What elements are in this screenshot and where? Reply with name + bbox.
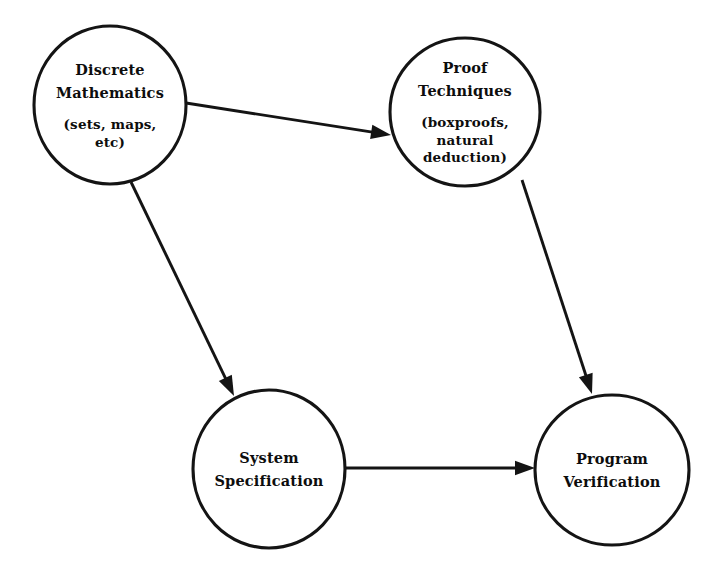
node-subtitle-line: natural (436, 132, 493, 148)
edge-arrowhead (370, 125, 391, 139)
edge-arrowhead (579, 373, 593, 394)
edge-discrete-mathematics-to-system-specification (131, 182, 234, 396)
nodes-layer: DiscreteMathematics(sets, maps,etc)Proof… (34, 26, 689, 548)
node-title-line: Verification (562, 473, 660, 490)
node-title-line: Mathematics (56, 84, 164, 101)
node-subtitle-line: etc) (95, 134, 125, 150)
edge-discrete-mathematics-to-proof-techniques (186, 103, 391, 139)
node-title-line: Techniques (418, 82, 512, 99)
node-proof-techniques[interactable]: ProofTechniques(boxproofs,naturaldeducti… (390, 38, 540, 186)
edge-line (131, 182, 228, 383)
node-title-line: Specification (214, 472, 323, 489)
edge-line (522, 180, 588, 381)
node-subtitle-line: (boxproofs, (421, 114, 509, 130)
edge-proof-techniques-to-program-verification (522, 180, 593, 394)
node-title-line: Program (576, 450, 649, 467)
edge-arrowhead (515, 461, 535, 475)
edge-arrowhead (219, 375, 234, 396)
node-ellipse (34, 26, 186, 184)
node-ellipse (535, 395, 689, 545)
node-discrete-mathematics[interactable]: DiscreteMathematics(sets, maps,etc) (34, 26, 186, 184)
node-title-line: Proof (442, 59, 489, 76)
node-title-line: Discrete (75, 61, 144, 78)
diagram-canvas: DiscreteMathematics(sets, maps,etc)Proof… (0, 0, 720, 575)
topic-flow-diagram: DiscreteMathematics(sets, maps,etc)Proof… (0, 0, 720, 575)
node-subtitle-line: (sets, maps, (64, 116, 157, 132)
edge-system-specification-to-program-verification (346, 461, 535, 475)
edge-line (186, 103, 377, 133)
node-system-specification[interactable]: SystemSpecification (193, 390, 345, 548)
node-ellipse (193, 390, 345, 548)
node-subtitle-line: deduction) (423, 149, 507, 165)
node-program-verification[interactable]: ProgramVerification (535, 395, 689, 545)
node-title-line: System (239, 449, 299, 466)
